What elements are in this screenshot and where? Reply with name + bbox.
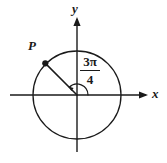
x-axis-arrowhead — [139, 91, 148, 98]
point-p-marker — [42, 60, 48, 66]
terminal-ray — [46, 64, 77, 95]
point-p-label: P — [28, 39, 36, 52]
angle-measure-label: 3π 4 — [76, 55, 104, 86]
unit-circle-figure: y x P 3π 4 — [0, 0, 167, 163]
angle-numerator: 3π — [76, 55, 104, 69]
y-axis-label: y — [72, 2, 78, 15]
x-axis-label: x — [152, 87, 159, 100]
y-axis-arrowhead — [73, 17, 80, 26]
angle-denominator: 4 — [76, 72, 104, 86]
fraction-bar — [80, 70, 100, 71]
